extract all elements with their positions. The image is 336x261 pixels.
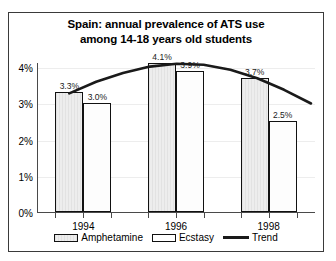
bar-amphetamine-1994: 3.3% xyxy=(55,92,83,212)
y-axis-tick-label: 4% xyxy=(19,63,33,74)
y-axis-tick-label: 0% xyxy=(19,208,33,219)
bar-value-label: 2.5% xyxy=(273,110,292,120)
legend-swatch-amphetamine-icon xyxy=(54,234,78,242)
x-axis-tick xyxy=(269,213,270,218)
legend-item-amphetamine[interactable]: Amphetamine xyxy=(54,232,143,243)
plot-area: 0%1%2%3%4% 3.3%3.0%4.1%3.9%3.7%2.5% 1994… xyxy=(37,68,315,213)
legend-swatch-ecstasy-icon xyxy=(152,234,176,242)
y-axis-tick-label: 1% xyxy=(19,171,33,182)
legend-item-trend[interactable]: Trend xyxy=(223,232,278,243)
bar-value-label: 3.9% xyxy=(180,60,199,70)
chart-title-line-1: Spain: annual prevalence of ATS use xyxy=(9,17,323,32)
chart-frame: Spain: annual prevalence of ATS use amon… xyxy=(8,12,324,252)
x-axis-tick xyxy=(55,213,56,218)
bar-value-label: 3.0% xyxy=(88,92,107,102)
gridline xyxy=(38,68,315,69)
chart-title: Spain: annual prevalence of ATS use amon… xyxy=(9,17,323,47)
x-axis-tick xyxy=(204,213,205,218)
bar-amphetamine-1996: 4.1% xyxy=(148,63,176,212)
bar-ecstasy-1994: 3.0% xyxy=(83,103,111,212)
x-axis-tick xyxy=(241,213,242,218)
x-axis-tick xyxy=(111,213,112,218)
legend-label-trend: Trend xyxy=(252,232,278,243)
x-axis-tick xyxy=(176,213,177,218)
y-axis-tick-label: 2% xyxy=(19,135,33,146)
legend-label-ecstasy: Ecstasy xyxy=(179,232,214,243)
bar-value-label: 3.3% xyxy=(60,81,79,91)
y-axis-line xyxy=(37,63,38,213)
x-axis-tick-label-1998: 1998 xyxy=(258,221,280,232)
x-axis-tick-label-1994: 1994 xyxy=(72,221,94,232)
chart-legend: Amphetamine Ecstasy Trend xyxy=(9,232,323,243)
bar-ecstasy-1998: 2.5% xyxy=(269,121,297,212)
x-axis-tick xyxy=(297,213,298,218)
legend-line-trend-icon xyxy=(223,236,249,239)
bar-amphetamine-1998: 3.7% xyxy=(241,78,269,212)
legend-label-amphetamine: Amphetamine xyxy=(81,232,143,243)
x-axis-tick xyxy=(83,213,84,218)
x-axis-tick xyxy=(148,213,149,218)
bar-value-label: 4.1% xyxy=(152,52,171,62)
bar-ecstasy-1996: 3.9% xyxy=(176,71,204,212)
x-axis-tick-label-1996: 1996 xyxy=(165,221,187,232)
chart-title-line-2: among 14-18 years old students xyxy=(9,32,323,47)
legend-item-ecstasy[interactable]: Ecstasy xyxy=(152,232,214,243)
y-axis-tick-label: 3% xyxy=(19,99,33,110)
bar-value-label: 3.7% xyxy=(245,67,264,77)
